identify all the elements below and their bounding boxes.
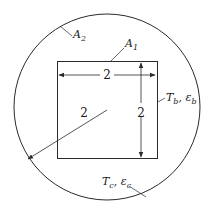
enclosure-diagram: 2 2 2 A2 A1 Tb, εb Tc, εc — [0, 0, 212, 213]
inner-surface-properties-label: Tb, εb — [166, 91, 197, 106]
outer-circle — [14, 14, 200, 200]
outer-surface-properties-label: Tc, εc — [102, 175, 132, 190]
width-label: 2 — [103, 68, 111, 82]
a2-leader — [60, 26, 72, 36]
a1-leader — [111, 48, 124, 61]
radius-arrow — [28, 110, 107, 159]
height-label: 2 — [137, 106, 145, 120]
a1-label: A1 — [124, 37, 138, 52]
a2-label: A2 — [72, 28, 86, 43]
tb-leader — [158, 98, 165, 102]
radius-label: 2 — [80, 106, 88, 120]
